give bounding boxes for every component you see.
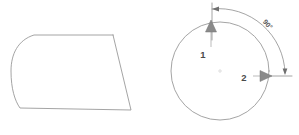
drawing-svg: 90° 1 2 — [0, 0, 299, 135]
arc-arrowhead-top-icon — [212, 7, 219, 12]
vector-1-group: 1 — [200, 20, 216, 60]
main-circle-outline — [171, 22, 269, 120]
vector-2-group: 2 — [241, 71, 272, 84]
rounded-left-quadrilateral-outline — [11, 35, 131, 110]
technical-drawing-figure: 90° 1 2 — [0, 0, 299, 135]
angular-dimension-arc — [212, 9, 285, 73]
vector-1-arrowhead-icon — [206, 20, 217, 32]
arc-arrowhead-right-icon — [283, 69, 288, 76]
vector-1-label: 1 — [200, 49, 206, 60]
circle-center-mark-icon — [219, 70, 221, 72]
vector-2-arrowhead-icon — [260, 71, 272, 82]
right-shape-group: 90° 1 2 — [171, 3, 292, 120]
left-shape-group — [11, 35, 131, 110]
vector-2-label: 2 — [241, 72, 246, 83]
angle-dimension-label: 90° — [262, 18, 274, 31]
